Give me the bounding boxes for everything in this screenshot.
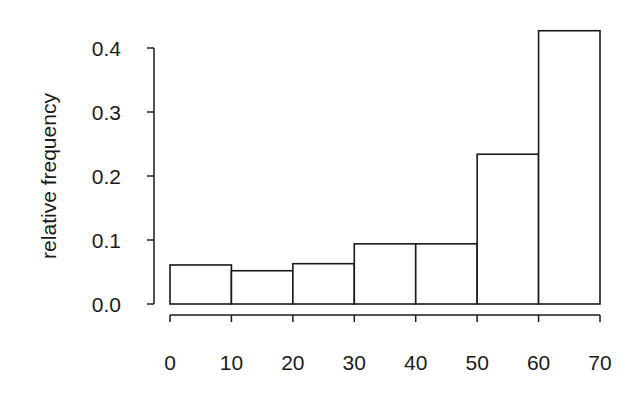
histogram-chart: 0.00.10.20.30.4 010203040506070 relative… <box>0 0 642 396</box>
bars <box>170 31 600 304</box>
y-axis-label: relative frequency <box>37 93 60 259</box>
y-tick-label: 0.1 <box>92 229 121 252</box>
histogram-bar <box>354 244 415 304</box>
histogram-bar <box>539 31 600 304</box>
y-tick-label: 0.3 <box>92 101 121 124</box>
x-tick-label: 30 <box>343 351 366 374</box>
histogram-bar <box>416 244 477 304</box>
x-tick-label: 40 <box>404 351 427 374</box>
x-tick-label: 10 <box>220 351 243 374</box>
histogram-bar <box>170 265 231 304</box>
x-axis: 010203040506070 <box>164 315 612 374</box>
histogram-bar <box>477 154 538 304</box>
y-tick-label: 0.2 <box>92 165 121 188</box>
y-tick-label: 0.4 <box>92 37 122 60</box>
histogram-bar <box>231 271 292 304</box>
x-tick-label: 50 <box>465 351 488 374</box>
x-tick-label: 70 <box>588 351 611 374</box>
y-tick-label: 0.0 <box>92 293 121 316</box>
x-tick-label: 20 <box>281 351 304 374</box>
y-axis: 0.00.10.20.30.4 <box>92 37 154 316</box>
histogram-bar <box>293 264 354 304</box>
x-tick-label: 0 <box>164 351 176 374</box>
x-tick-label: 60 <box>527 351 550 374</box>
